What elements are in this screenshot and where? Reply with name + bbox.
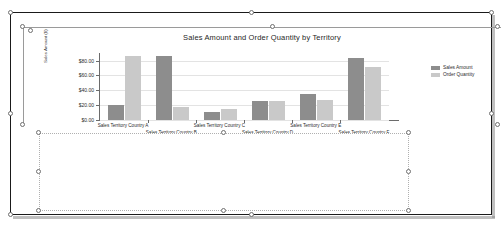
y-tick-80 [96, 61, 99, 62]
resize-handle-bottom-left[interactable] [20, 122, 25, 127]
chart-item[interactable]: Sales Amount and Order Quantity by Terri… [23, 27, 501, 125]
report-body-shadow-bottom [13, 216, 495, 219]
y-axis-label-60: $60.00 [79, 72, 94, 78]
empty-report-item-panel[interactable] [39, 133, 409, 211]
panel-resize-handle-top-center[interactable] [221, 130, 226, 135]
chart-title: Sales Amount and Order Quantity by Terri… [23, 33, 501, 42]
body-resize-handle-bottom-center[interactable] [249, 212, 254, 217]
legend-label-order-quantity: Order Quantity [443, 72, 474, 77]
x-axis-label: Sales Territory Country A [98, 123, 149, 128]
report-design-canvas: Sales Amount and Order Quantity by Terri… [0, 0, 504, 229]
resize-handle-bottom-right[interactable] [495, 122, 500, 127]
body-resize-handle-middle-right[interactable] [489, 111, 494, 116]
legend-label-sales-amount: Sales Amount [443, 65, 473, 70]
bar-order-quantity [317, 100, 333, 120]
bar-order-quantity [269, 101, 285, 120]
x-axis-label: Sales Territory Country E [290, 123, 341, 128]
bar-sales-amount [348, 58, 364, 120]
bar-group [293, 53, 341, 120]
y-tick-40 [96, 90, 99, 91]
y-tick-20 [96, 105, 99, 106]
bar-sales-amount [300, 94, 316, 120]
y-axis-label-20: $20.00 [79, 102, 94, 108]
y-axis-label-0: $0.00 [81, 117, 94, 123]
body-resize-handle-top-left[interactable] [8, 10, 13, 15]
bar-sales-amount [108, 105, 124, 120]
bar-series-container [100, 53, 389, 120]
y-axis-label-80: $80.00 [79, 58, 94, 64]
y-tick-60 [96, 75, 99, 76]
bar-group [148, 53, 196, 120]
panel-resize-handle-bottom-left[interactable] [36, 208, 41, 213]
resize-handle-top-left[interactable] [20, 24, 25, 29]
legend-swatch-sales-amount [431, 66, 440, 70]
bar-order-quantity [125, 56, 141, 120]
bar-group [245, 53, 293, 120]
bar-order-quantity [173, 107, 189, 120]
panel-resize-handle-bottom-center[interactable] [221, 208, 226, 213]
report-body[interactable]: Sales Amount and Order Quantity by Terri… [10, 12, 492, 215]
y-axis-title: Sales Amount ($) [43, 29, 48, 63]
plot-area: $0.00 $20.00 $40.00 $60.00 $80.00 [99, 53, 389, 121]
bar-group [100, 53, 148, 120]
panel-resize-handle-bottom-right[interactable] [406, 208, 411, 213]
panel-resize-handle-top-left[interactable] [36, 130, 41, 135]
panel-resize-handle-top-right[interactable] [406, 130, 411, 135]
x-axis-label: Sales Territory Country C [194, 123, 245, 128]
bar-group [341, 53, 389, 120]
legend-item-order-quantity: Order Quantity [431, 72, 474, 77]
bar-order-quantity [221, 109, 237, 120]
body-resize-handle-middle-left[interactable] [8, 111, 13, 116]
body-resize-handle-top-center[interactable] [249, 10, 254, 15]
bar-order-quantity [365, 67, 381, 120]
column-chart[interactable]: Sales Amount and Order Quantity by Terri… [23, 27, 501, 125]
y-axis-label-40: $40.00 [79, 87, 94, 93]
panel-resize-handle-middle-left[interactable] [36, 169, 41, 174]
y-tick-0 [96, 120, 99, 121]
resize-handle-top-right[interactable] [495, 24, 500, 29]
bar-sales-amount [156, 56, 172, 120]
body-resize-handle-bottom-left[interactable] [8, 212, 13, 217]
bar-group [196, 53, 244, 120]
bar-sales-amount [204, 112, 220, 120]
legend-swatch-order-quantity [431, 73, 440, 77]
bar-sales-amount [252, 101, 268, 120]
move-handle[interactable] [28, 28, 33, 33]
legend-item-sales-amount: Sales Amount [431, 65, 474, 70]
resize-handle-top-center[interactable] [270, 24, 275, 29]
chart-legend: Sales Amount Order Quantity [431, 65, 474, 79]
panel-resize-handle-middle-right[interactable] [406, 169, 411, 174]
body-resize-handle-top-right[interactable] [489, 10, 494, 15]
